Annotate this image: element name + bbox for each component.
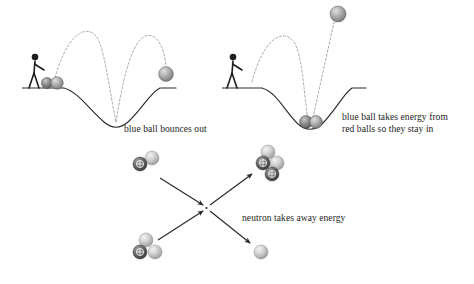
deuterium-proton: [133, 157, 147, 171]
left-ball-trajectory: [54, 31, 116, 122]
left-escaped-ball: [159, 67, 174, 82]
right-ball-escape-line: [312, 22, 334, 122]
right-panel-graphics: [222, 6, 366, 129]
tritium-proton: [133, 245, 147, 259]
fusion-panel-graphics: [133, 145, 284, 259]
helium-proton-2: [265, 167, 279, 181]
free-neutron: [254, 245, 268, 259]
deuterium-nucleus: [133, 151, 159, 171]
left-panel-caption: blue ball bounces out: [124, 124, 207, 136]
left-ball-exit-trajectory: [116, 35, 166, 122]
fusion-panel-caption: neutron takes away energy: [242, 213, 345, 225]
helium-proton-1: [256, 156, 270, 170]
arrow-helium-out: [210, 174, 252, 205]
diagram-canvas: [0, 0, 474, 284]
arrow-deuterium-in: [160, 178, 203, 205]
tritium-nucleus: [133, 233, 162, 259]
fusion-analogy-figure: blue ball bounces out blue ball takes en…: [0, 0, 474, 284]
right-stick-figure: [227, 54, 242, 88]
arrow-tritium-in: [158, 211, 203, 240]
right-panel-caption-line2: red balls so they stay in: [342, 124, 448, 136]
right-panel-caption: blue ball takes energy from red balls so…: [342, 112, 448, 135]
right-ball-trajectory: [252, 36, 308, 122]
right-panel-caption-line1: blue ball takes energy from: [342, 112, 448, 124]
helium-nucleus: [256, 145, 284, 181]
left-panel-graphics: [22, 31, 176, 127]
left-well-ball-2: [51, 77, 63, 89]
left-potential-well: [64, 88, 176, 127]
collision-point: [205, 207, 207, 209]
right-well-ball-2: [310, 116, 323, 129]
right-escaped-ball: [330, 6, 346, 22]
tritium-neutron-2: [148, 245, 162, 259]
